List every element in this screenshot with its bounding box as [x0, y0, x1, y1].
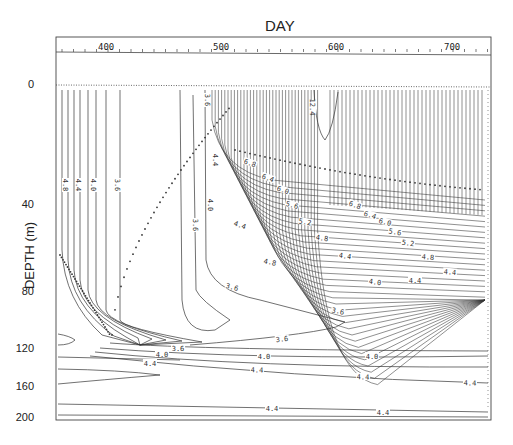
- contour-label: 4.0: [206, 199, 214, 212]
- contour-label: 4.4: [233, 220, 248, 232]
- contour-label: 6.0: [378, 217, 392, 228]
- contour-label: 4.8: [263, 257, 277, 267]
- contour-label: 4.4: [251, 366, 264, 374]
- contour-label: 6.8: [348, 200, 363, 212]
- contour-label: 4.0: [89, 179, 97, 192]
- contour-label: 5.2: [298, 217, 312, 227]
- contour-label: 3.6: [331, 306, 345, 316]
- contour-label: 4.8: [61, 179, 69, 192]
- contour-label: 4.8: [421, 253, 434, 262]
- contour-label: 4.4: [357, 373, 370, 381]
- contour-label: 4.4: [443, 268, 456, 277]
- contour-label: 4.4: [74, 179, 82, 192]
- contour-label: 12.4: [308, 99, 316, 116]
- contour-label: 4.4: [377, 409, 390, 417]
- contour-label: 4.4: [144, 360, 157, 368]
- contour-label: 3.6: [275, 335, 288, 344]
- contour-label: 5.6: [285, 200, 299, 211]
- contour-plot: 3.64.84.44.03.64.43.64.06.86.46.05.65.24…: [0, 0, 513, 445]
- contour-label: 4.0: [368, 278, 382, 288]
- contour-label: 4.4: [338, 252, 352, 262]
- contour-label: 4.0: [366, 353, 379, 361]
- contour-label: 4.0: [258, 353, 271, 361]
- contour-label: 5.6: [388, 227, 402, 237]
- contour-label: 4.0: [156, 351, 169, 359]
- contour-label: 4.4: [266, 405, 279, 413]
- contour-label: 4.4: [211, 154, 219, 167]
- contour-label: 3.6: [191, 219, 199, 232]
- contour-label: 5.2: [401, 239, 415, 249]
- contour-label: 3.6: [225, 282, 239, 293]
- contour-label: 6.4: [363, 210, 378, 222]
- contour-label: 6.0: [276, 185, 291, 197]
- contour-label: 3.6: [113, 179, 121, 192]
- contour-label: 3.6: [203, 94, 211, 107]
- contour-label: 4.4: [464, 379, 477, 387]
- contour-label: 4.4: [409, 277, 422, 285]
- contour-label: 4.8: [315, 234, 329, 244]
- contour-label: 6.8: [243, 158, 258, 170]
- contour-label: 3.6: [172, 345, 185, 353]
